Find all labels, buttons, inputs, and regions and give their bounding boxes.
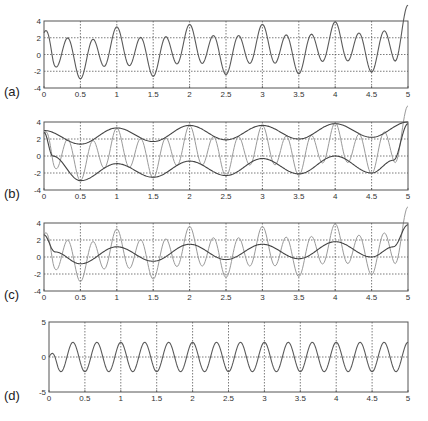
x-tick-label: 5 xyxy=(406,192,411,201)
panel-label: (c) xyxy=(4,287,19,302)
x-tick-label: 0 xyxy=(47,394,52,403)
y-tick-label: -2 xyxy=(34,67,42,76)
x-tick-label: 2.5 xyxy=(220,192,232,201)
x-tick-label: 4.5 xyxy=(367,394,379,403)
x-tick-label: 1.5 xyxy=(148,192,160,201)
x-tick-label: 1 xyxy=(119,394,124,403)
y-tick-label: 5 xyxy=(42,318,47,327)
panel-a: 00.511.522.533.544.55420-2-4(a) xyxy=(4,5,411,99)
x-tick-label: 4 xyxy=(333,293,338,302)
figure: 00.511.522.533.544.55420-2-4(a)00.511.52… xyxy=(0,0,428,421)
x-tick-label: 1.5 xyxy=(148,90,160,99)
chart-canvas: 00.511.522.533.544.55420-2-4(a)00.511.52… xyxy=(0,0,428,421)
y-tick-label: 2 xyxy=(37,34,42,43)
x-tick-label: 4.5 xyxy=(366,192,378,201)
y-tick-label: 2 xyxy=(37,135,42,144)
y-tick-label: -4 xyxy=(34,186,42,195)
y-tick-label: -4 xyxy=(34,84,42,93)
panel-label: (a) xyxy=(4,84,20,99)
x-tick-label: 1.5 xyxy=(151,394,163,403)
y-tick-label: 2 xyxy=(37,236,42,245)
x-tick-label: 3.5 xyxy=(293,293,305,302)
x-tick-label: 3.5 xyxy=(293,192,305,201)
panel-d: 00.511.522.533.544.5550-5(d) xyxy=(4,318,411,403)
x-tick-label: 2 xyxy=(187,192,192,201)
y-tick-label: -2 xyxy=(34,270,42,279)
x-tick-label: 0 xyxy=(42,293,47,302)
x-tick-label: 4.5 xyxy=(366,293,378,302)
x-tick-label: 3 xyxy=(260,90,265,99)
x-tick-label: 0 xyxy=(42,192,47,201)
x-tick-label: 3 xyxy=(260,192,265,201)
x-tick-label: 2 xyxy=(187,90,192,99)
panel-c: 00.511.522.533.544.55420-2-4(c) xyxy=(4,207,411,302)
y-tick-label: 4 xyxy=(37,219,42,228)
series-signal xyxy=(44,5,408,79)
y-tick-label: -2 xyxy=(34,169,42,178)
x-tick-label: 1 xyxy=(115,293,120,302)
x-tick-label: 0 xyxy=(42,90,47,99)
y-tick-label: 4 xyxy=(37,118,42,127)
x-tick-label: 2.5 xyxy=(223,394,235,403)
y-tick-label: -4 xyxy=(34,287,42,296)
x-tick-label: 1 xyxy=(115,192,120,201)
x-tick-label: 2 xyxy=(187,293,192,302)
x-tick-label: 2 xyxy=(190,394,195,403)
x-tick-label: 4 xyxy=(334,394,339,403)
x-tick-label: 4 xyxy=(333,90,338,99)
y-tick-label: 0 xyxy=(37,253,42,262)
y-tick-label: 0 xyxy=(37,51,42,60)
x-tick-label: 2.5 xyxy=(220,90,232,99)
x-tick-label: 3.5 xyxy=(293,90,305,99)
x-tick-label: 4 xyxy=(333,192,338,201)
x-tick-label: 0.5 xyxy=(75,192,87,201)
x-tick-label: 4.5 xyxy=(366,90,378,99)
x-tick-label: 1 xyxy=(115,90,120,99)
y-tick-label: 0 xyxy=(37,152,42,161)
panel-b: 00.511.522.533.544.55420-2-4(b) xyxy=(4,106,411,201)
x-tick-label: 3 xyxy=(260,293,265,302)
x-tick-label: 5 xyxy=(406,90,411,99)
y-tick-label: 4 xyxy=(37,17,42,26)
panel-label: (b) xyxy=(4,186,20,201)
x-tick-label: 0.5 xyxy=(75,293,87,302)
x-tick-label: 0.5 xyxy=(79,394,91,403)
x-tick-label: 1.5 xyxy=(148,293,160,302)
y-tick-label: -5 xyxy=(39,388,47,397)
x-tick-label: 5 xyxy=(406,293,411,302)
x-tick-label: 2.5 xyxy=(220,293,232,302)
y-tick-label: 0 xyxy=(42,353,47,362)
x-tick-label: 3 xyxy=(262,394,267,403)
x-tick-label: 0.5 xyxy=(75,90,87,99)
x-tick-label: 3.5 xyxy=(295,394,307,403)
panel-label: (d) xyxy=(4,388,20,403)
x-tick-label: 5 xyxy=(406,394,411,403)
